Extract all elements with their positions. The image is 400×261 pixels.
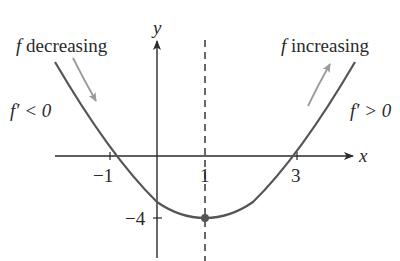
- y-axis-label: y: [151, 17, 162, 38]
- tick-label-1: 1: [200, 165, 210, 186]
- increasing-arrow: [308, 64, 330, 106]
- vertex-point: [201, 214, 209, 222]
- tick-label-3: 3: [291, 165, 301, 186]
- fprime-positive-label: f′ > 0: [350, 100, 392, 121]
- tick-label-neg4: −4: [125, 208, 146, 229]
- f-increasing-label: f increasing: [281, 35, 370, 56]
- chart-canvas: y x −1 1 3 −4 f decreasing f′ < 0 f incr…: [0, 0, 400, 261]
- x-axis-label: x: [358, 145, 368, 166]
- fprime-negative-label: f′ < 0: [10, 100, 52, 121]
- decreasing-arrow: [73, 58, 96, 101]
- f-decreasing-label: f decreasing: [16, 35, 108, 56]
- tick-label-neg1: −1: [93, 165, 113, 186]
